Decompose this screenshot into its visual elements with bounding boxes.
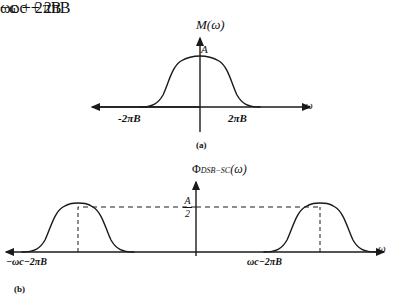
panel-a-amplitude-label: A: [201, 44, 208, 55]
panel-b-x-axis-label: ω: [378, 243, 386, 254]
panel-b-y-axis-label: ΦDSB−SC(ω): [192, 163, 247, 175]
figure-container: M(ω) A -2πB 2πB ω (a) ΦDSB−SC(ω) A 2 −ωc…: [0, 0, 399, 306]
panel-b-tick-positive-lower: ωc−2πB: [247, 257, 282, 267]
panel-a-y-axis-label: M(ω): [196, 18, 225, 31]
amplitude-numerator: A: [183, 196, 191, 206]
panel-a-tick-left: -2πB: [118, 113, 141, 124]
panel-b-y-axis-label-main: Φ: [192, 162, 201, 176]
figure-svg: [0, 0, 399, 306]
panel-b-caption: (b): [14, 285, 25, 294]
panel-b-tick-positive-upper: ωc + 2πB: [0, 0, 61, 16]
panel-b-y-axis-label-sub: DSB−SC: [201, 166, 230, 175]
panel-b-tick-negative-lower: −ωc−2πB: [6, 257, 47, 267]
amplitude-denominator: 2: [184, 209, 191, 219]
panel-a-caption: (a): [196, 141, 207, 150]
panel-b-graph: [6, 182, 384, 256]
panel-a-tick-right: 2πB: [228, 113, 247, 124]
panel-b-y-axis-label-arg: (ω): [230, 162, 246, 176]
panel-a-x-axis-label: ω: [305, 100, 313, 111]
panel-b-amplitude-label: A 2: [183, 196, 192, 219]
